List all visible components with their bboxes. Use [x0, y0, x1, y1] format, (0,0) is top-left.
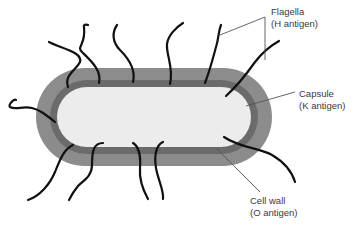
bacterium-diagram: Flagella (H antigen) Capsule (K antigen)…: [0, 0, 354, 226]
capsule-label: Capsule (K antigen): [299, 88, 345, 112]
cell-wall-label: Cell wall (O antigen): [250, 195, 298, 219]
flagella-leader-line: [220, 17, 265, 60]
flagella-label-antigen: (H antigen): [271, 18, 318, 30]
capsule-label-antigen: (K antigen): [299, 100, 345, 112]
capsule-label-name: Capsule: [299, 88, 345, 100]
cell-wall-label-antigen: (O antigen): [250, 207, 298, 219]
cell-wall-label-name: Cell wall: [250, 195, 298, 207]
flagella-label: Flagella (H antigen): [271, 6, 318, 30]
bacterium-illustration: [0, 0, 354, 226]
flagella-label-name: Flagella: [271, 6, 318, 18]
cytoplasm: [57, 87, 251, 147]
